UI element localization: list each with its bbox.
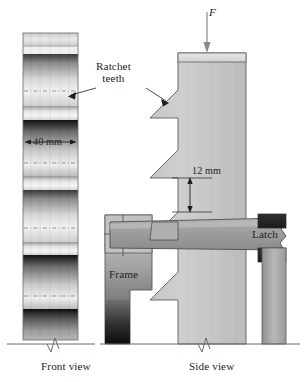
latch-nose — [150, 222, 178, 240]
ratchet-teeth-label-line1: Ratchet — [96, 60, 131, 72]
dimension-label-40mm: 40 mm — [33, 136, 62, 147]
ratchet-teeth-leaders — [71, 88, 166, 101]
engineering-drawing — [0, 0, 306, 382]
latch-stop-upper — [258, 214, 286, 228]
frame-label: Frame — [109, 268, 138, 280]
front-view-group — [7, 33, 95, 352]
side-view-label: Side view — [189, 360, 234, 372]
ratchet-post — [150, 53, 246, 344]
ratchet-teeth-label: Ratchet teeth — [96, 60, 131, 84]
ratchet-teeth-label-line2: teeth — [96, 72, 131, 84]
front-view-rod — [23, 33, 78, 340]
force-label: F — [209, 6, 216, 18]
latch-label: Latch — [252, 228, 278, 240]
figure-canvas: F Ratchet teeth 40 mm 12 mm Frame Latch … — [0, 0, 306, 382]
frame-foot — [105, 300, 130, 344]
dimension-label-12mm: 12 mm — [192, 165, 221, 176]
right-column — [262, 248, 286, 344]
front-view-label: Front view — [41, 360, 91, 372]
